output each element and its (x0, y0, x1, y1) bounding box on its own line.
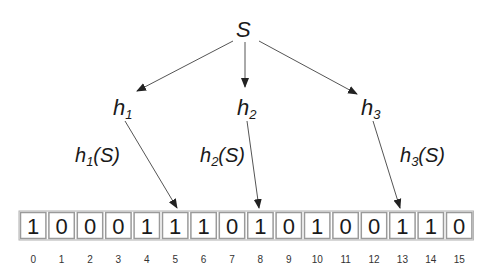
bit-cell: 0 (333, 213, 358, 240)
bit-cell: 0 (77, 213, 102, 240)
bit-index: 5 (172, 254, 178, 265)
bit-value: 1 (169, 214, 181, 239)
bit-cell: 1 (191, 213, 216, 240)
bit-cell: 1 (418, 213, 443, 240)
hash-node-h1: h1 (113, 95, 132, 122)
bit-cell: 1 (134, 213, 159, 240)
hash-node-h3: h3 (361, 95, 381, 122)
hash-node-h2: h2 (237, 95, 257, 122)
hash-output-h1: h1(S) (75, 144, 120, 169)
bit-index: 0 (30, 254, 36, 265)
bit-index: 1 (59, 254, 65, 265)
bit-value: 1 (311, 214, 323, 239)
bit-value: 0 (112, 214, 124, 239)
bit-index: 7 (229, 254, 235, 265)
bit-cell: 1 (305, 213, 330, 240)
hash-output-labels: h1(S) h2(S) h3(S) (75, 144, 445, 169)
bloom-filter-diagram: S h1 h2 h3 h1(S) h2(S) h3(S) (0, 0, 491, 276)
bit-cell: 1 (21, 213, 46, 240)
bit-cell: 0 (219, 213, 244, 240)
bit-value: 1 (254, 214, 266, 239)
bit-cell: 0 (361, 213, 386, 240)
bit-index: 12 (368, 254, 380, 265)
bit-cell: 1 (248, 213, 273, 240)
arrow-h1-to-bit-5 (125, 121, 177, 208)
bit-array-indices: 0123456789101112131415 (30, 254, 465, 265)
bit-index: 11 (340, 254, 351, 265)
arrow-s-to-h3 (259, 41, 357, 94)
bit-index: 14 (425, 254, 437, 265)
arrow-s-to-h1 (137, 41, 233, 91)
bit-value: 1 (27, 214, 39, 239)
arrow-h2-to-bit-8 (247, 121, 259, 208)
bit-value: 0 (339, 214, 351, 239)
bit-cell: 0 (447, 213, 472, 240)
hash-function-nodes: h1 h2 h3 (113, 95, 381, 122)
root-set-label: S (236, 17, 251, 42)
bit-value: 0 (368, 214, 380, 239)
bit-index: 15 (454, 254, 466, 265)
bit-index: 3 (116, 254, 122, 265)
bit-index: 4 (144, 254, 150, 265)
bit-value: 0 (283, 214, 295, 239)
bit-array: 1000111010100110 (19, 211, 473, 240)
arrow-h3-to-bit-13 (373, 121, 400, 208)
hash-output-h3: h3(S) (400, 144, 445, 169)
bit-value: 0 (55, 214, 67, 239)
bit-value: 1 (141, 214, 153, 239)
bit-cell: 1 (163, 213, 188, 240)
bit-cell: 0 (106, 213, 131, 240)
bit-cell: 0 (276, 213, 301, 240)
bit-value: 0 (226, 214, 238, 239)
bit-value: 1 (197, 214, 209, 239)
bit-index: 6 (201, 254, 207, 265)
bit-index: 13 (397, 254, 409, 265)
hash-to-array-arrows (125, 121, 400, 208)
bit-value: 0 (84, 214, 96, 239)
bit-cell: 0 (49, 213, 74, 240)
bit-value: 1 (396, 214, 408, 239)
bit-value: 1 (425, 214, 437, 239)
bit-cell: 1 (390, 213, 415, 240)
bit-index: 9 (286, 254, 292, 265)
bit-index: 10 (312, 254, 324, 265)
root-to-hash-arrows (137, 41, 357, 94)
bit-index: 2 (87, 254, 93, 265)
hash-output-h2: h2(S) (200, 144, 245, 169)
bit-index: 8 (258, 254, 264, 265)
bit-value: 0 (453, 214, 465, 239)
